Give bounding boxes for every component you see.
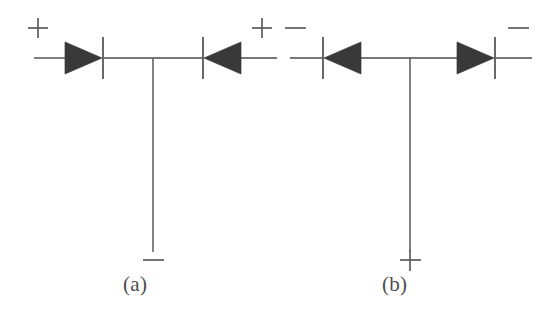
panel-b xyxy=(285,28,532,271)
diode-b-right-triangle xyxy=(457,42,494,74)
sign-a-left-plus-icon xyxy=(28,18,48,38)
circuit-diagram-figure: (a) (b) xyxy=(0,0,557,326)
diode-a-left-triangle xyxy=(65,42,102,74)
sign-b-bottom-plus-icon xyxy=(400,250,421,271)
diode-b-left-triangle xyxy=(324,42,361,74)
circuit-diagram-canvas xyxy=(0,0,557,326)
sign-a-right-plus-icon xyxy=(252,18,272,38)
diode-a-right-triangle xyxy=(204,42,241,74)
panel-b-caption: (b) xyxy=(382,272,407,297)
panel-a xyxy=(28,18,277,260)
panel-a-caption: (a) xyxy=(123,272,147,297)
